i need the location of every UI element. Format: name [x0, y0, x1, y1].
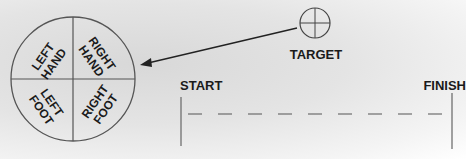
- quadrant-right-foot: RIGHT FOOT: [79, 82, 123, 129]
- target-icon: [300, 8, 330, 38]
- diagram-canvas: LEFT HAND RIGHT HAND LEFT FOOT RIGHT FOO…: [0, 0, 466, 159]
- quadrant-right-hand: RIGHT HAND: [75, 34, 119, 81]
- quadrant-left-hand: LEFT HAND: [27, 38, 69, 82]
- limb-circle: LEFT HAND RIGHT HAND LEFT FOOT RIGHT FOO…: [11, 17, 135, 141]
- target-label: TARGET: [290, 47, 343, 62]
- start-label: START: [180, 78, 222, 93]
- arrow-to-circle: [140, 28, 297, 67]
- quadrant-left-foot: LEFT FOOT: [26, 85, 68, 128]
- diagram: LEFT HAND RIGHT HAND LEFT FOOT RIGHT FOO…: [0, 0, 466, 159]
- finish-label: FINISH: [423, 78, 466, 93]
